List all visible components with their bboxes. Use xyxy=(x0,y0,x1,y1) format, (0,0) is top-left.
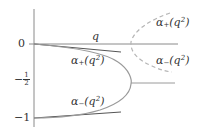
tick-label-zero: 0 xyxy=(18,38,25,49)
fraction: 12 xyxy=(23,72,29,87)
arg: (q xyxy=(169,16,180,29)
label-alpha-plus-left: α+(q2) xyxy=(71,55,104,67)
label-alpha-plus-right: α+(q2) xyxy=(156,17,189,29)
tick-label-minus-half: −12 xyxy=(14,72,30,87)
fraction-denominator: 2 xyxy=(24,80,28,87)
label-alpha-minus-right: α−(q2) xyxy=(156,55,189,67)
arg: (q xyxy=(84,54,95,67)
minus-sign: − xyxy=(14,73,23,86)
arg: (q xyxy=(84,95,95,108)
tick-label-minus-one: −1 xyxy=(14,112,30,123)
paren: ) xyxy=(185,16,189,29)
arg: (q xyxy=(169,54,180,67)
label-alpha-minus-left: α−(q2) xyxy=(71,96,104,108)
paren: ) xyxy=(100,95,104,108)
label-q: q xyxy=(92,31,99,42)
paren: ) xyxy=(185,54,189,67)
paren: ) xyxy=(100,54,104,67)
